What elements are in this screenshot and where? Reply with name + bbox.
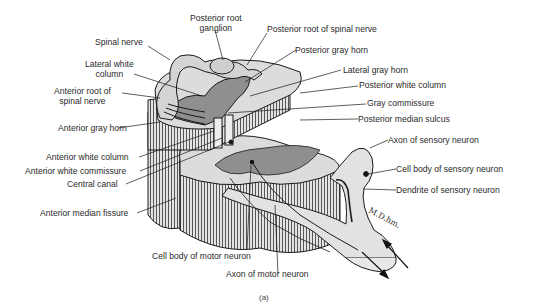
posterior-root-ganglion bbox=[210, 58, 234, 74]
label-posterior-median-sulcus: Posterior median sulcus bbox=[358, 114, 450, 124]
figure-caption: (a) bbox=[259, 293, 269, 302]
label-lateral-gray-horn: Lateral gray horn bbox=[343, 65, 408, 75]
label-posterior-gray-horn: Posterior gray horn bbox=[295, 45, 368, 55]
label-anterior-white-column: Anterior white column bbox=[46, 152, 129, 162]
label-axon-motor-neuron: Axon of motor neuron bbox=[226, 269, 309, 279]
label-spinal-nerve: Spinal nerve bbox=[95, 37, 143, 47]
label-anterior-root: Anterior root of spinal nerve bbox=[54, 86, 111, 106]
label-anterior-white-commissure: Anterior white commissure bbox=[25, 166, 126, 176]
label-central-canal: Central canal bbox=[67, 179, 118, 189]
label-posterior-white-column: Posterior white column bbox=[359, 80, 446, 90]
label-posterior-root-spinal-nerve: Posterior root of spinal nerve bbox=[267, 24, 377, 34]
label-lateral-white-column: Lateral white column bbox=[85, 59, 134, 79]
label-cell-body-sensory-neuron: Cell body of sensory neuron bbox=[396, 164, 503, 174]
label-anterior-median-fissure: Anterior median fissure bbox=[40, 208, 128, 218]
label-posterior-root-ganglion: Posterior root ganglion bbox=[190, 13, 242, 33]
label-cell-body-motor-neuron: Cell body of motor neuron bbox=[152, 251, 251, 261]
label-gray-commissure: Gray commissure bbox=[367, 98, 434, 108]
label-axon-sensory-neuron: Axon of sensory neuron bbox=[388, 135, 479, 145]
sensory-neuron-body bbox=[364, 172, 369, 177]
label-anterior-gray-horn: Anterior gray horn bbox=[58, 123, 127, 133]
label-dendrite-sensory-neuron: Dendrite of sensory neuron bbox=[396, 185, 500, 195]
